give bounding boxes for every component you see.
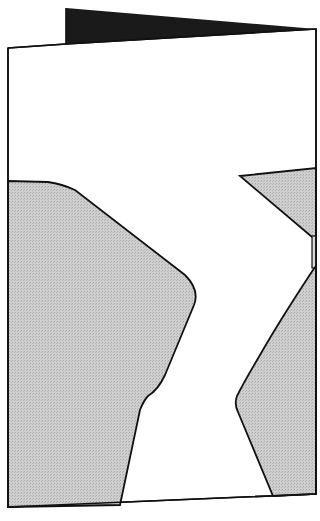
card-illustration — [0, 0, 320, 521]
folded-card-figure — [0, 0, 320, 521]
